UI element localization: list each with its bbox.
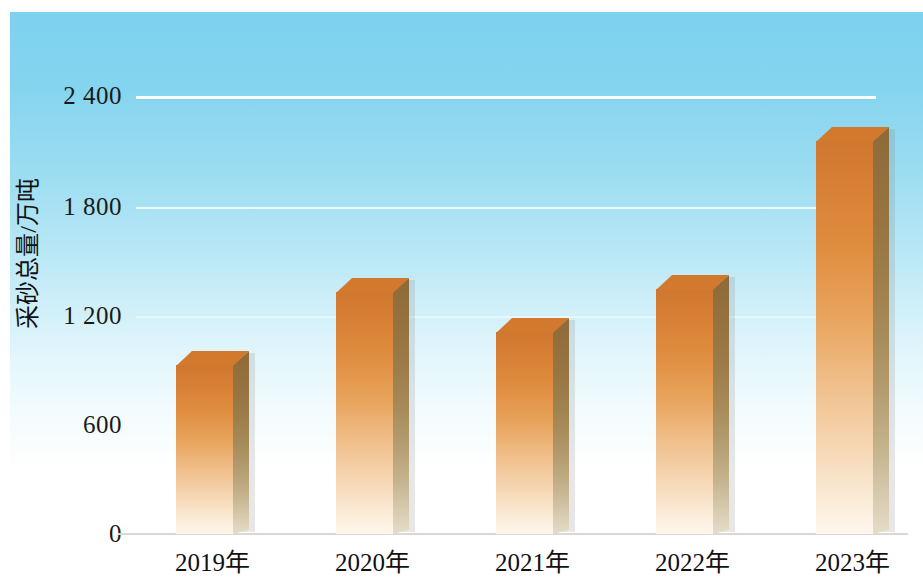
- bar-chart: 采砂总量/万吨 2 400 1 800 1 200 600 0 2019年202…: [0, 0, 923, 586]
- bar-side-face: [553, 318, 569, 534]
- plot-background: [10, 12, 923, 534]
- bar-front-face: [336, 292, 393, 534]
- x-tick-label-2021年: 2021年: [454, 542, 611, 578]
- gridline-2400: [136, 96, 876, 99]
- bar-front-face: [656, 289, 713, 534]
- bar-front-face: [496, 332, 553, 534]
- bar-side-face: [713, 275, 729, 534]
- bar-2023年: [816, 127, 873, 534]
- bar-side-face: [393, 278, 409, 534]
- x-tick-label-2022年: 2022年: [614, 542, 771, 578]
- bar-2020年: [336, 278, 393, 534]
- gridline-1800: [136, 207, 876, 209]
- x-tick-label-2020年: 2020年: [294, 542, 451, 578]
- y-tick-label-600: 600: [83, 411, 122, 439]
- bar-2019年: [176, 351, 233, 534]
- bar-side-face: [233, 351, 249, 534]
- bar-2021年: [496, 318, 553, 534]
- bar-side-face: [873, 127, 889, 534]
- y-tick-label-2400: 2 400: [63, 82, 122, 110]
- bar-front-face: [176, 365, 233, 534]
- x-tick-label-2023年: 2023年: [774, 542, 923, 578]
- y-tick-label-1200: 1 200: [63, 302, 122, 330]
- y-axis-title: 采砂总量/万吨: [8, 139, 43, 369]
- bar-2022年: [656, 275, 713, 534]
- x-tick-label-2019年: 2019年: [134, 542, 291, 578]
- bar-front-face: [816, 141, 873, 534]
- y-tick-label-1800: 1 800: [63, 193, 122, 221]
